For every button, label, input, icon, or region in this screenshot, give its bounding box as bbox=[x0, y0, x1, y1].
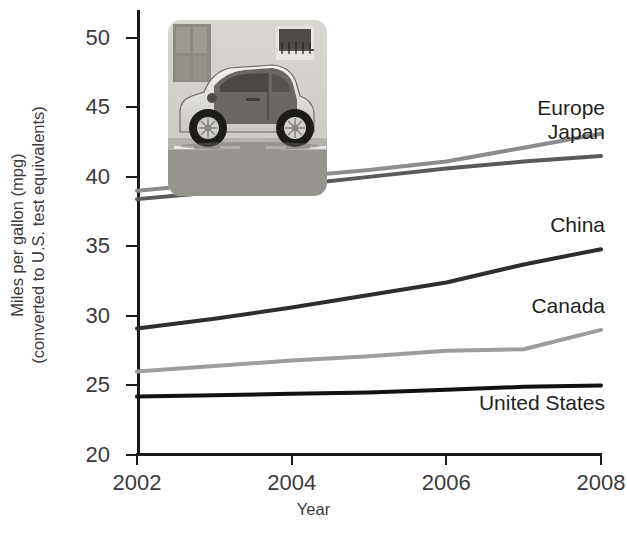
x-tick-label: 2008 bbox=[577, 470, 626, 496]
y-axis-title-line-1: Miles per gallon (mpg) bbox=[7, 106, 28, 364]
series-label-china: China bbox=[550, 213, 605, 237]
smart-car-photo bbox=[168, 20, 327, 196]
x-tick-label: 2002 bbox=[113, 470, 162, 496]
y-tick-label: 30 bbox=[86, 303, 110, 329]
x-tick-label: 2004 bbox=[267, 470, 316, 496]
x-axis-title: Year bbox=[0, 500, 627, 519]
series-label-canada: Canada bbox=[531, 294, 605, 318]
y-tick-label: 25 bbox=[86, 372, 110, 398]
y-axis-title: Miles per gallon (mpg) (converted to U.S… bbox=[0, 0, 56, 470]
series-label-europe: Europe bbox=[537, 96, 605, 120]
chart-figure: Miles per gallon (mpg) (converted to U.S… bbox=[0, 0, 627, 544]
y-tick-label: 40 bbox=[86, 164, 110, 190]
y-axis-title-line-2: (converted to U.S. test equivalents) bbox=[28, 106, 49, 364]
y-tick-label: 35 bbox=[86, 233, 110, 259]
x-tick-label: 2006 bbox=[422, 470, 471, 496]
series-label-united-states: United States bbox=[479, 391, 605, 415]
y-tick-label: 45 bbox=[86, 94, 110, 120]
series-label-japan: Japan bbox=[548, 120, 605, 144]
series-line-canada bbox=[137, 330, 601, 372]
y-tick-label: 50 bbox=[86, 25, 110, 51]
y-tick-label: 20 bbox=[86, 442, 110, 468]
